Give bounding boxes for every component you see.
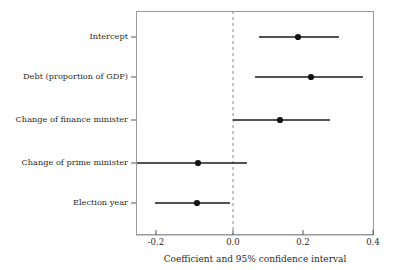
point-estimate-change-of-finance-minister [277,117,283,123]
plot-canvas: Intercept Debt (proportion of GDP) Chang… [0,0,395,270]
point-estimate-intercept [295,34,301,40]
coefficient-plot-figure: Intercept Debt (proportion of GDP) Chang… [0,0,395,270]
point-estimate-debt-proportion-of-gdp [308,74,314,80]
ylabel-debt-proportion-of-gdp: Debt (proportion of GDP) [23,71,128,81]
xtick-label-0-4: 0.4 [366,237,380,247]
ylabel-intercept: Intercept [89,31,128,41]
plot-panel-background [136,11,374,235]
ylabel-change-of-finance-minister: Change of finance minister [16,114,128,124]
ylabel-election-year: Election year [73,197,128,207]
x-axis-title: Coefficient and 95% confidence interval [164,254,347,264]
ylabel-change-of-prime-minister: Change of prime minister [22,157,129,167]
xtick-label-neg-0-2: -0.2 [148,237,165,247]
point-estimate-election-year [194,200,200,206]
point-estimate-change-of-prime-minister [195,160,201,166]
xtick-label-0-0: 0.0 [226,237,240,247]
xtick-label-0-2: 0.2 [296,237,310,247]
